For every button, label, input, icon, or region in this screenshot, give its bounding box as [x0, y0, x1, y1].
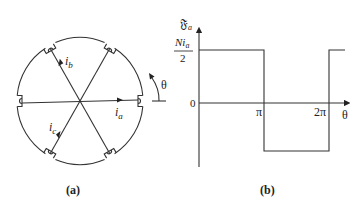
- label-ic: ic: [49, 120, 56, 136]
- y-tick-top-numerator: Nia: [174, 36, 189, 50]
- slot-0deg: [138, 96, 143, 107]
- diagram-canvas: ib ia ic θ (a) 𝔉a Nia 2 0 π 2π: [0, 0, 364, 206]
- label-ia: ia: [115, 105, 123, 121]
- caption-a: (a): [66, 183, 80, 197]
- caption-b: (b): [260, 183, 275, 197]
- ib-arrow-icon: [59, 59, 64, 66]
- x-axis-label: θ: [342, 108, 348, 122]
- mmf-chart: 𝔉a Nia 2 0 π 2π θ: [174, 17, 348, 167]
- ia-arrow-icon: [117, 98, 123, 103]
- theta-arc: [152, 78, 159, 101]
- y-tick-top-denominator: 2: [180, 52, 186, 64]
- y-tick-zero: 0: [190, 97, 196, 109]
- slot-180deg: [17, 96, 22, 107]
- label-ib: ib: [65, 54, 73, 70]
- label-theta-a: θ: [161, 78, 167, 92]
- x-tick-pi: π: [256, 105, 262, 119]
- y-axis-label: 𝔉a: [180, 17, 192, 32]
- mmf-waveform: [199, 50, 345, 151]
- stator-diagram: [17, 37, 143, 164]
- x-tick-2pi: 2π: [314, 105, 326, 119]
